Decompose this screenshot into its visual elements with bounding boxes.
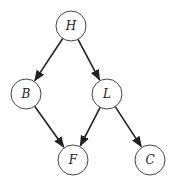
node-l: L: [92, 79, 122, 109]
edge-l-c: [115, 107, 141, 147]
nodes-group: HBLFC: [11, 11, 165, 175]
node-f: F: [58, 145, 88, 175]
node-label: H: [65, 19, 77, 33]
edges-group: [35, 39, 142, 147]
node-label: F: [68, 153, 78, 167]
node-h: H: [56, 11, 86, 41]
edge-h-b: [35, 39, 63, 81]
node-label: L: [102, 87, 111, 101]
edge-h-l: [78, 39, 99, 80]
graph-canvas: HBLFC: [0, 0, 173, 183]
node-c: C: [135, 145, 165, 175]
edge-b-f: [35, 106, 64, 147]
edge-l-f: [80, 107, 100, 145]
node-label: B: [21, 87, 31, 101]
node-b: B: [11, 79, 41, 109]
node-label: C: [145, 153, 154, 167]
